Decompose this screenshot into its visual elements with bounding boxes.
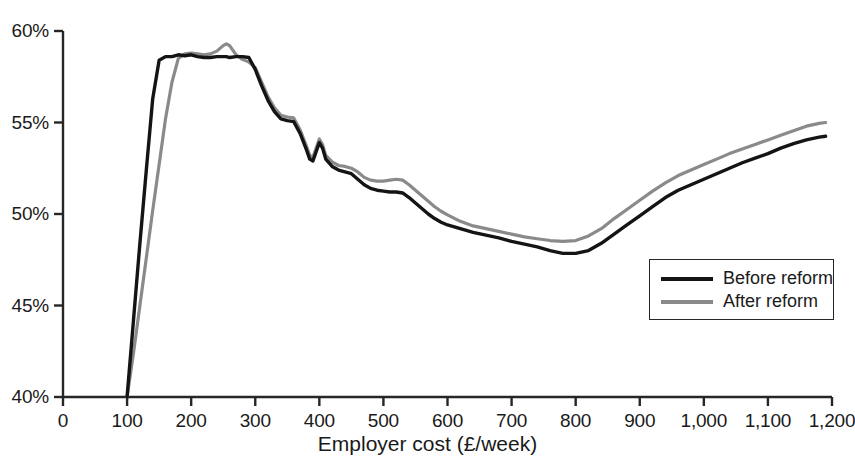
data-series-lines (127, 44, 826, 397)
x-axis-tick-label: 100 (112, 410, 143, 432)
x-axis-tick-label: 900 (624, 410, 655, 432)
x-axis-tick-label: 0 (58, 410, 68, 432)
legend-swatch-before-reform-icon (661, 277, 713, 281)
y-axis-tick-label: 60% (0, 20, 49, 42)
y-axis-tick-label: 40% (0, 386, 49, 408)
chart-legend: Before reform After reform (649, 259, 834, 320)
legend-label-after-reform: After reform (723, 291, 818, 312)
x-axis-tick-label: 300 (240, 410, 271, 432)
legend-item-after-reform: After reform (650, 290, 833, 313)
legend-swatch-after-reform-icon (661, 300, 713, 304)
chart-plot-area (0, 0, 855, 468)
x-axis-tick-label: 200 (176, 410, 207, 432)
chart-container: 40%45%50%55%60% 010020030040050060070080… (0, 0, 855, 468)
x-axis-tick-label: 700 (496, 410, 527, 432)
x-axis-title: Employer cost (£/week) (0, 432, 855, 456)
y-axis-tick-label: 55% (0, 112, 49, 134)
x-axis-tick-label: 500 (368, 410, 399, 432)
y-axis-tick-label: 50% (0, 203, 49, 225)
legend-label-before-reform: Before reform (723, 268, 833, 289)
y-axis-tick-label: 45% (0, 295, 49, 317)
x-axis-tick-label: 1,100 (745, 410, 792, 432)
x-axis-tick-label: 1,200 (809, 410, 855, 432)
x-axis-tick-label: 1,000 (681, 410, 728, 432)
x-axis-tick-label: 400 (304, 410, 335, 432)
x-axis-tick-label: 800 (560, 410, 591, 432)
legend-item-before-reform: Before reform (650, 267, 833, 290)
x-axis-tick-label: 600 (432, 410, 463, 432)
